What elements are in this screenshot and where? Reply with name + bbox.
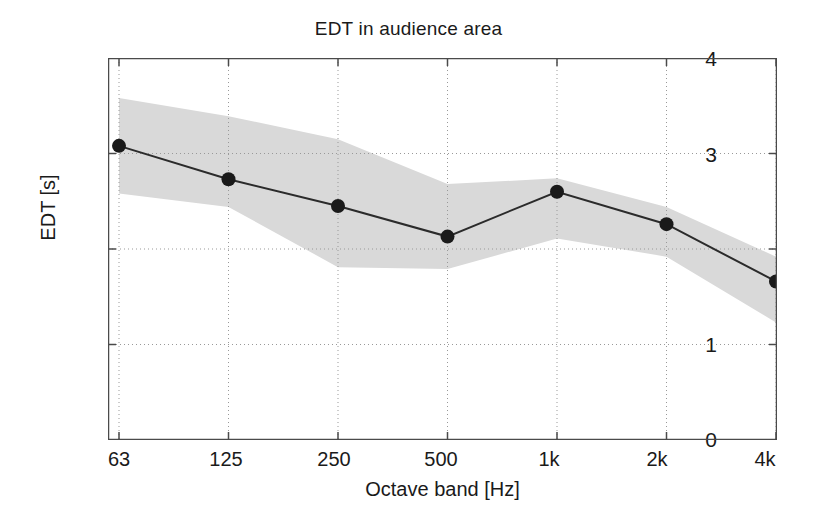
x-tick-label-2k: 2k bbox=[617, 448, 697, 471]
x-tick-label-500: 500 bbox=[401, 448, 481, 471]
chart-figure: EDT in audience area EDT [s] Octave band… bbox=[0, 0, 817, 512]
x-tick-label-250: 250 bbox=[294, 448, 374, 471]
x-tick-label-4k: 4k bbox=[725, 448, 805, 471]
x-tick-label-1k: 1k bbox=[509, 448, 589, 471]
plot-area bbox=[108, 58, 777, 440]
chart-title: EDT in audience area bbox=[0, 18, 817, 40]
x-tick-label-125: 125 bbox=[186, 448, 266, 471]
x-axis-label: Octave band [Hz] bbox=[108, 478, 777, 501]
x-tick-label-63: 63 bbox=[79, 448, 159, 471]
y-axis-label: EDT [s] bbox=[37, 118, 60, 298]
chart-canvas bbox=[108, 58, 777, 440]
